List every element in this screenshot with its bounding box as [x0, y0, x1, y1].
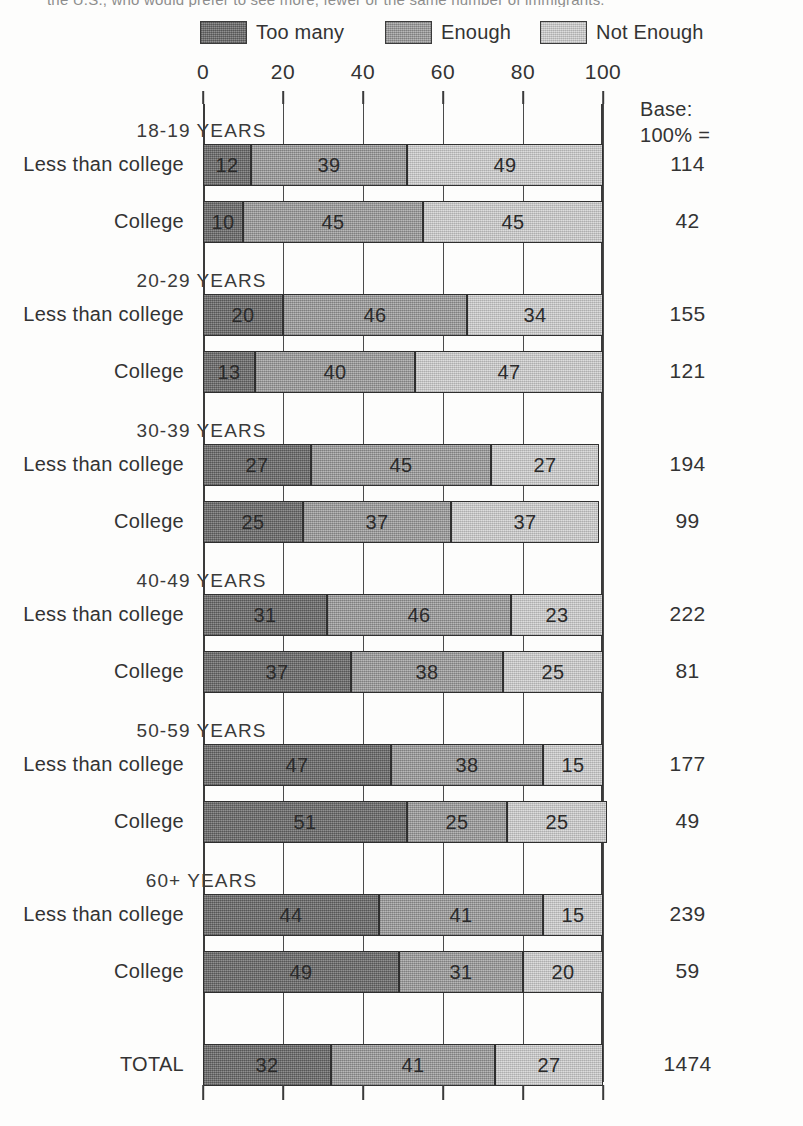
legend-item-too_many: Too many: [200, 19, 344, 45]
group-title-30-39-years: 30-39 YEARS: [0, 420, 803, 442]
legend-swatch-enough: [385, 21, 432, 44]
axis-tick-mark-bottom-100: [602, 1085, 604, 1100]
bar-segment-too-many: 13: [203, 351, 255, 393]
bar-segment-too-many: 31: [203, 594, 327, 636]
bar-segment-value: 12: [215, 154, 238, 177]
bar-segment-value: 27: [245, 454, 268, 477]
axis-tick-mark-bottom-80: [522, 1085, 524, 1100]
legend-swatch-not_enough: [540, 21, 587, 44]
row-label-18-19-years-college: College: [114, 210, 184, 233]
row-base-40-49-years-college: 81: [640, 659, 735, 683]
bar-segment-value: 13: [217, 361, 240, 384]
bar-segment-value: 38: [455, 754, 478, 777]
bar-segment-too-many: 51: [203, 801, 407, 843]
bar-segment-not-enough: 25: [503, 651, 603, 693]
row-label-20-29-years-college: College: [114, 360, 184, 383]
bar-segment-value: 37: [365, 511, 388, 534]
stacked-bar-50-59-years-less-than-college: 473815: [203, 744, 603, 786]
row-label-30-39-years-less-than-college: Less than college: [23, 453, 184, 476]
group-title-text: 20-29 YEARS: [136, 270, 266, 291]
bar-segment-not-enough: 45: [423, 201, 603, 243]
row-base-50-59-years-less-than-college: 177: [640, 752, 735, 776]
group-title-text: 60+ YEARS: [146, 870, 257, 891]
bar-segment-value: 45: [389, 454, 412, 477]
stacked-bar-20-29-years-less-than-college: 204634: [203, 294, 603, 336]
stacked-bar-20-29-years-college: 134047: [203, 351, 603, 393]
group-title-40-49-years: 40-49 YEARS: [0, 570, 803, 592]
axis-tick-mark-100: [602, 91, 604, 104]
bar-segment-value: 46: [407, 604, 430, 627]
row-base-20-29-years-less-than-college: 155: [640, 302, 735, 326]
bar-segment-value: 49: [493, 154, 516, 177]
bar-segment-enough: 37: [303, 501, 451, 543]
bar-segment-value: 41: [449, 904, 472, 927]
axis-tick-mark-80: [522, 91, 524, 104]
bar-segment-value: 15: [561, 904, 584, 927]
axis-tick-mark-20: [282, 91, 284, 104]
bar-segment-enough: 31: [399, 951, 523, 993]
bar-segment-not-enough: 27: [495, 1044, 603, 1086]
legend-item-not_enough: Not Enough: [540, 19, 704, 45]
axis-tick-mark-bottom-60: [442, 1085, 444, 1100]
bar-segment-enough: 38: [391, 744, 543, 786]
bar-segment-value: 25: [445, 811, 468, 834]
stacked-bar-60-years-college: 493120: [203, 951, 603, 993]
axis-tick-mark-bottom-0: [202, 1085, 204, 1100]
stacked-bar-total: 324127: [203, 1044, 603, 1086]
bar-segment-too-many: 32: [203, 1044, 331, 1086]
bar-segment-value: 25: [545, 811, 568, 834]
row-label-30-39-years-college: College: [114, 510, 184, 533]
bar-segment-enough: 38: [351, 651, 503, 693]
bar-segment-value: 37: [265, 661, 288, 684]
bar-segment-value: 44: [279, 904, 302, 927]
bar-segment-not-enough: 34: [467, 294, 603, 336]
group-title-text: 18-19 YEARS: [136, 120, 266, 141]
bar-segment-enough: 41: [331, 1044, 495, 1086]
group-title-text: 40-49 YEARS: [136, 570, 266, 591]
bar-segment-enough: 39: [251, 144, 407, 186]
bar-segment-value: 47: [285, 754, 308, 777]
bar-segment-enough: 40: [255, 351, 415, 393]
legend-label-not_enough: Not Enough: [596, 21, 704, 44]
row-label-18-19-years-less-than-college: Less than college: [23, 153, 184, 176]
bar-segment-not-enough: 37: [451, 501, 599, 543]
stacked-bar-60-years-less-than-college: 444115: [203, 894, 603, 936]
row-label-40-49-years-college: College: [114, 660, 184, 683]
row-base-40-49-years-less-than-college: 222: [640, 602, 735, 626]
bar-segment-not-enough: 47: [415, 351, 603, 393]
legend-label-enough: Enough: [441, 21, 511, 44]
bar-segment-not-enough: 23: [511, 594, 603, 636]
bar-segment-too-many: 37: [203, 651, 351, 693]
legend-label-too_many: Too many: [256, 21, 344, 44]
bar-segment-enough: 46: [283, 294, 467, 336]
bar-segment-value: 15: [561, 754, 584, 777]
bar-segment-value: 25: [241, 511, 264, 534]
bar-segment-value: 23: [545, 604, 568, 627]
axis-tick-mark-60: [442, 91, 444, 104]
axis-tick-label-0: 0: [197, 60, 209, 84]
bar-segment-not-enough: 27: [491, 444, 599, 486]
row-label-40-49-years-less-than-college: Less than college: [23, 603, 184, 626]
chart-legend: Too manyEnoughNot Enough: [0, 19, 803, 47]
bar-segment-value: 46: [363, 304, 386, 327]
row-base-50-59-years-college: 49: [640, 809, 735, 833]
bar-segment-too-many: 10: [203, 201, 243, 243]
row-base-total: 1474: [640, 1052, 735, 1076]
stacked-bar-50-59-years-college: 512525: [203, 801, 603, 843]
bar-segment-too-many: 27: [203, 444, 311, 486]
bar-segment-value: 39: [317, 154, 340, 177]
bar-segment-value: 10: [211, 211, 234, 234]
bar-segment-enough: 46: [327, 594, 511, 636]
axis-tick-mark-bottom-40: [362, 1085, 364, 1100]
axis-tick-label-100: 100: [585, 60, 622, 84]
bar-segment-value: 38: [415, 661, 438, 684]
gridline-100: [603, 104, 604, 1082]
row-label-50-59-years-less-than-college: Less than college: [23, 753, 184, 776]
bar-segment-value: 25: [541, 661, 564, 684]
legend-swatch-too_many: [200, 21, 247, 44]
bar-segment-value: 31: [449, 961, 472, 984]
stacked-bar-40-49-years-less-than-college: 314623: [203, 594, 603, 636]
bar-segment-enough: 45: [311, 444, 491, 486]
bar-segment-not-enough: 49: [407, 144, 603, 186]
axis-tick-label-20: 20: [271, 60, 295, 84]
